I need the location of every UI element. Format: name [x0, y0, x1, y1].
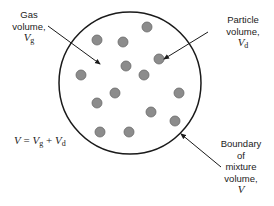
- particle: [174, 88, 184, 98]
- particle: [121, 61, 131, 71]
- particle: [76, 70, 86, 80]
- particle: [95, 127, 105, 137]
- eq-term2: V: [55, 134, 62, 146]
- boundary-symbol-v: V: [238, 183, 245, 195]
- particle: [139, 70, 149, 80]
- arrows-group: [48, 26, 221, 167]
- eq-term2-sub: d: [62, 139, 66, 148]
- particle: [146, 107, 156, 117]
- particle: [154, 54, 164, 64]
- particle-arrow: [164, 32, 208, 59]
- particle: [124, 127, 134, 137]
- gas-arrow: [48, 26, 100, 64]
- boundary-label-line2: of: [215, 150, 267, 162]
- particle: [110, 88, 120, 98]
- particle-symbol-sub: d: [244, 41, 248, 50]
- boundary-label-line3: mixture: [215, 161, 267, 173]
- particle: [92, 98, 102, 108]
- particle: [92, 35, 102, 45]
- particle-symbol: Vd: [219, 37, 267, 52]
- eq-lhs: V: [14, 134, 21, 146]
- particle-label-line1: Particle: [219, 14, 267, 26]
- gas-label-line1: Gas: [5, 9, 53, 21]
- particle: [142, 22, 152, 32]
- eq-plus: +: [43, 134, 55, 146]
- particles-group: [76, 22, 184, 137]
- particle-volume-label: Particle volume, Vd: [219, 14, 267, 52]
- gas-symbol-sub: g: [30, 36, 34, 45]
- boundary-label-line1: Boundary: [215, 138, 267, 150]
- eq-equals: =: [21, 134, 33, 146]
- gas-volume-label: Gas volume, Vg: [5, 9, 53, 47]
- particle: [118, 37, 128, 47]
- volume-equation: V = Vg + Vd: [14, 134, 66, 148]
- particle: [170, 116, 180, 126]
- gas-symbol: Vg: [5, 32, 53, 47]
- boundary-label: Boundary of mixture volume, V: [215, 138, 267, 196]
